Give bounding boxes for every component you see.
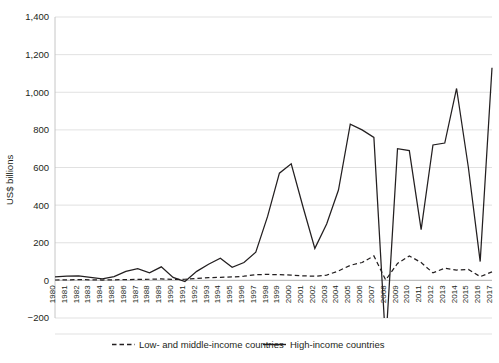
x-tick-label: 2007 — [367, 285, 376, 303]
cross-border-flows-line-chart: −20002004006008001,0001,2001,400 1980198… — [0, 0, 499, 363]
x-tick-label: 1981 — [60, 285, 69, 303]
x-tick-label: 2005 — [343, 285, 352, 303]
y-tick-label: 1,400 — [25, 11, 49, 22]
x-tick-label: 2006 — [355, 285, 364, 303]
x-tick-label: 1994 — [213, 285, 222, 303]
x-tick-label: 2013 — [438, 285, 447, 303]
chart-legend: Low- and middle-income countriesHigh-inc… — [112, 339, 385, 350]
x-tick-label: 1980 — [48, 285, 57, 303]
x-tick-label: 1999 — [272, 285, 281, 303]
x-tick-label: 2000 — [284, 285, 293, 303]
x-tick-label: 1985 — [107, 285, 116, 303]
y-tick-label: 800 — [33, 124, 49, 135]
x-tick-label: 1996 — [237, 285, 246, 303]
x-tick-label: 1988 — [142, 285, 151, 303]
y-axis-title: US$ billions — [4, 155, 15, 205]
x-tick-label: 1995 — [225, 285, 234, 303]
x-tick-label: 2004 — [331, 285, 340, 303]
x-tick-label: 2001 — [296, 285, 305, 303]
x-tick-label: 2010 — [402, 285, 411, 303]
x-tick-label: 2009 — [391, 285, 400, 303]
x-tick-label: 1986 — [119, 285, 128, 303]
x-tick-label: 2012 — [426, 285, 435, 303]
y-tick-label: 200 — [33, 237, 49, 248]
x-tick-label: 1993 — [202, 285, 211, 303]
x-tick-label: 2014 — [450, 285, 459, 303]
y-tick-label: 1,200 — [25, 49, 49, 60]
x-tick-label: 2011 — [414, 285, 423, 303]
legend-label-low-middle-income: Low- and middle-income countries — [139, 339, 284, 350]
y-tick-label: −200 — [28, 312, 49, 323]
x-tick-label: 2015 — [461, 285, 470, 303]
x-tick-label: 1982 — [72, 285, 81, 303]
x-tick-label: 1983 — [83, 285, 92, 303]
x-tick-label: 1998 — [261, 285, 270, 303]
y-tick-label: 0 — [44, 275, 49, 286]
x-tick-label: 2017 — [485, 285, 494, 303]
y-tick-label: 400 — [33, 200, 49, 211]
x-tick-label: 1997 — [249, 285, 258, 303]
x-tick-label: 1991 — [178, 285, 187, 303]
x-tick-label: 1989 — [154, 285, 163, 303]
y-tick-label: 600 — [33, 162, 49, 173]
x-tick-label: 1984 — [95, 285, 104, 303]
x-tick-label: 2002 — [308, 285, 317, 303]
y-tick-label: 1,000 — [25, 87, 49, 98]
x-tick-label: 1987 — [131, 285, 140, 303]
legend-label-high-income: High-income countries — [290, 339, 385, 350]
x-tick-label: 2003 — [320, 285, 329, 303]
x-tick-label: 2016 — [473, 285, 482, 303]
x-tick-label: 1990 — [166, 285, 175, 303]
x-tick-label: 1992 — [190, 285, 199, 303]
